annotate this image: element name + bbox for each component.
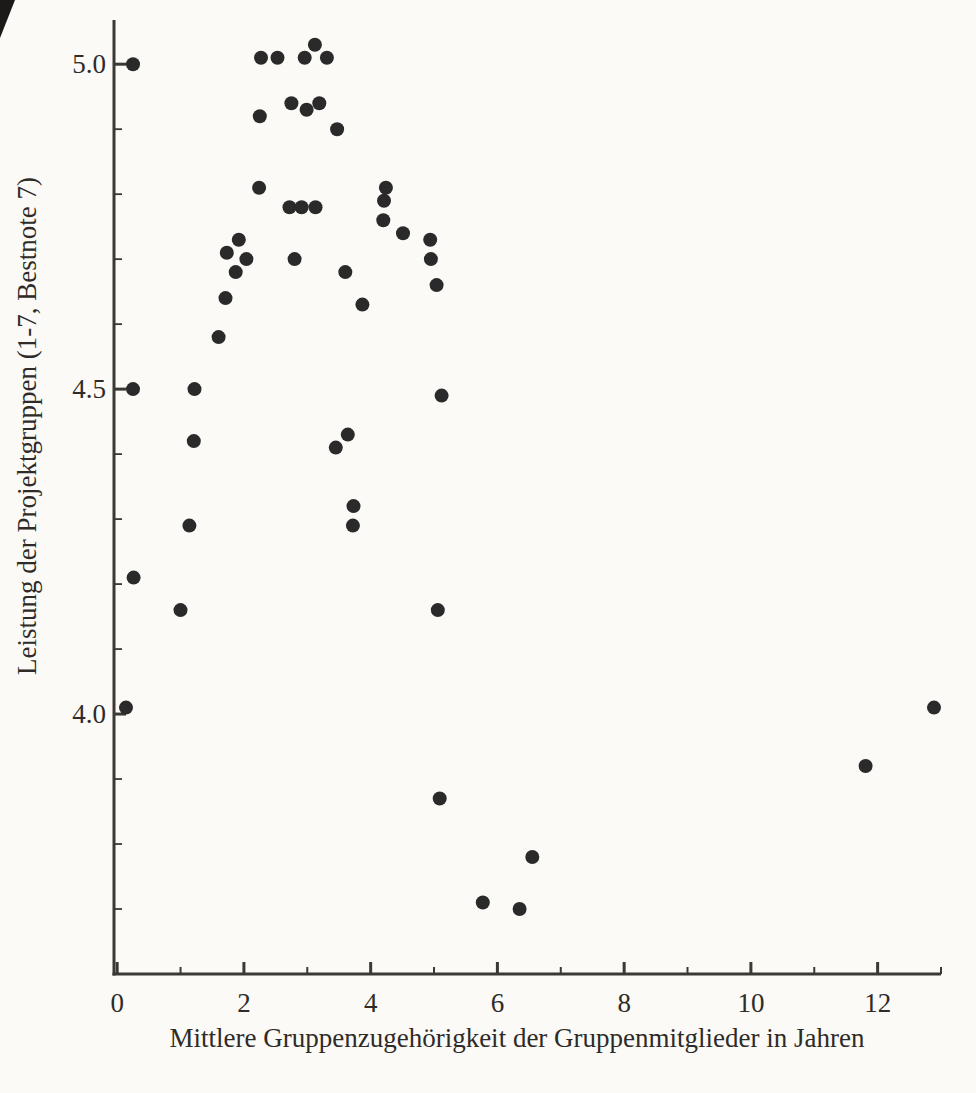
data-point [312,96,326,110]
data-point [424,252,438,266]
x-tick-label: 2 [237,988,251,1018]
data-point [330,122,344,136]
y-tick-label: 4.5 [72,374,106,404]
x-axis-title: Mittlere Gruppenzugehörigkeit der Gruppe… [169,1023,865,1053]
data-point [220,246,234,260]
data-point [525,850,539,864]
scatter-plot: 0246810124.04.55.0 Mittlere Gruppenzugeh… [0,0,976,1093]
data-point [396,226,410,240]
data-point [187,434,201,448]
data-point [212,330,226,344]
data-point [288,252,302,266]
data-point [379,181,393,195]
data-point [341,428,355,442]
data-point [355,298,369,312]
data-point [271,51,285,65]
x-tick-label: 10 [737,988,764,1018]
data-point [927,701,941,715]
data-point [423,233,437,247]
data-point [283,200,297,214]
data-point [309,200,323,214]
axis-ticks [114,64,941,974]
data-point [308,38,322,52]
data-point [329,441,343,455]
scatter-figure: 0246810124.04.55.0 Mittlere Gruppenzugeh… [0,0,976,1093]
data-point [252,181,266,195]
data-point [229,265,243,279]
data-point [476,896,490,910]
data-point [377,194,391,208]
data-point [346,519,360,533]
scan-corner-artifact [0,0,15,38]
data-point [338,265,352,279]
data-point [513,902,527,916]
y-tick-label: 5.0 [72,49,106,79]
data-point [347,499,361,513]
x-tick-label: 4 [364,988,378,1018]
data-point [119,701,133,715]
data-point [174,603,188,617]
data-point [431,603,445,617]
axis-tick-labels: 0246810124.04.55.0 [72,49,891,1018]
data-point [295,200,309,214]
x-tick-label: 6 [491,988,505,1018]
data-point [253,109,267,123]
data-point [859,759,873,773]
x-tick-label: 8 [617,988,631,1018]
data-point [188,382,202,396]
data-point [430,278,444,292]
y-axis-title: Leistung der Projektgruppen (1-7, Bestno… [12,177,42,675]
data-point [126,57,140,71]
data-point [376,213,390,227]
data-point [219,291,233,305]
data-point [433,792,447,806]
data-point [127,571,141,585]
data-point [320,51,334,65]
data-point [126,382,140,396]
y-tick-label: 4.0 [72,699,106,729]
data-point [300,103,314,117]
x-tick-label: 0 [110,988,124,1018]
x-tick-label: 12 [864,988,891,1018]
data-point [298,51,312,65]
data-point [239,252,253,266]
data-point [232,233,246,247]
data-points [119,38,941,916]
data-point [284,96,298,110]
data-point [435,389,449,403]
data-point [254,51,268,65]
data-point [182,519,196,533]
